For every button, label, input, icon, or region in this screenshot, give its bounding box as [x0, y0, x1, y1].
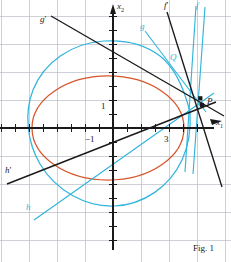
line-h-cyan — [34, 93, 214, 220]
figure-container: g′ f′ f g Q P h′ h x2 x1 1 −1 3 Fig. 1 — [0, 0, 231, 262]
point-Q-marker — [198, 96, 202, 100]
label-h: h — [26, 203, 31, 212]
conic-cyan — [28, 41, 190, 206]
axis-label-x1: x1 — [216, 118, 223, 129]
tick-label-x-minus-1: −1 — [85, 135, 95, 144]
figure-canvas — [0, 0, 231, 262]
label-g-prime: g′ — [40, 15, 46, 24]
tick-label-x-3: 3 — [164, 135, 169, 144]
label-P: P — [207, 97, 213, 106]
label-h-prime: h′ — [5, 166, 11, 175]
point-P-marker — [200, 103, 205, 108]
line-g-prime — [51, 16, 224, 116]
label-f: f — [196, 1, 199, 10]
figure-caption: Fig. 1 — [193, 244, 214, 253]
label-f-prime: f′ — [164, 1, 168, 10]
tick-label-y-1: 1 — [101, 102, 106, 111]
label-Q: Q — [170, 53, 177, 62]
y-axis-arrowhead — [110, 4, 116, 14]
axis-label-x2: x2 — [117, 2, 124, 13]
label-g: g — [140, 22, 145, 31]
